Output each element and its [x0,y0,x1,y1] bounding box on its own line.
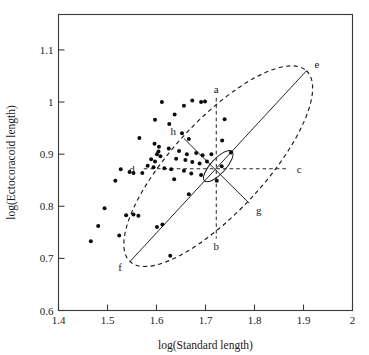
data-point [89,239,93,243]
data-point [173,113,177,117]
annotation-label-f: f [118,261,122,273]
x-tick-label: 1.5 [101,314,115,326]
major-axis-line [130,71,306,262]
data-point [119,167,123,171]
data-point [158,154,162,158]
y-axis-title: log(Ectocoracoid length) [5,105,18,220]
data-point [146,164,150,168]
data-point [185,152,189,156]
data-point [153,142,157,146]
data-point [149,157,153,161]
y-tick-label: 0.9 [40,148,54,160]
data-point [156,150,160,154]
data-point [174,157,178,161]
data-point [189,171,193,175]
data-point [160,100,164,104]
data-point [229,151,233,155]
data-point [140,171,144,175]
annotation-label-d: d [129,163,135,175]
annotation-label-h: h [170,125,176,137]
data-point [172,177,176,181]
data-point [182,104,186,108]
data-point [190,160,194,164]
data-point [199,100,203,104]
y-tick-label: 0.8 [40,200,54,212]
y-tick-label: 1.1 [40,44,54,56]
annotation-label-b: b [214,240,220,252]
data-point [157,145,161,149]
x-tick-label: 1.9 [297,314,311,326]
data-point [220,139,224,143]
data-point [183,158,187,162]
data-point [187,137,191,141]
x-tick-label: 1.6 [150,314,164,326]
data-point [220,164,224,168]
annotation-label-c: c [297,163,302,175]
data-point [153,118,157,122]
data-point [160,223,164,227]
annotation-label-e: e [314,58,319,70]
data-point [168,254,172,258]
y-tick-label: 0.7 [40,252,54,264]
data-point [103,206,107,210]
data-point [153,159,157,163]
scatter-plot-figure: 1.41.51.61.71.81.920.60.70.80.911.1log(S… [0,0,369,355]
x-axis-title: log(Standard length) [158,339,253,352]
data-point [169,167,173,171]
data-point [113,179,117,183]
data-point [199,173,203,177]
data-point [223,117,227,121]
x-tick-label: 1.4 [52,314,66,326]
x-tick-label: 1.7 [199,314,213,326]
data-point [182,169,186,173]
annotation-label-a: a [214,83,219,95]
data-point [177,149,181,153]
data-point [131,213,135,217]
data-point [190,98,194,102]
data-point [180,131,184,135]
data-point [187,192,191,196]
y-tick-label: 0.6 [40,305,54,317]
data-point [215,179,219,183]
x-tick-label: 1.8 [248,314,262,326]
data-point [152,165,156,169]
plot-canvas: 1.41.51.61.71.81.920.60.70.80.911.1log(S… [0,0,369,355]
data-point [205,159,209,163]
data-point [201,153,205,157]
annotation-label-g: g [256,204,262,216]
y-tick-label: 1 [48,96,54,108]
data-point [194,151,198,155]
data-point [198,162,202,166]
data-point [117,233,121,237]
data-point [167,146,171,150]
data-point [203,100,207,104]
data-point [155,225,159,229]
data-point [162,166,166,170]
data-point [96,224,100,228]
x-tick-label: 2 [350,314,356,326]
data-point [124,213,128,217]
data-point [209,152,213,156]
data-point [136,214,140,218]
data-point [137,136,141,140]
